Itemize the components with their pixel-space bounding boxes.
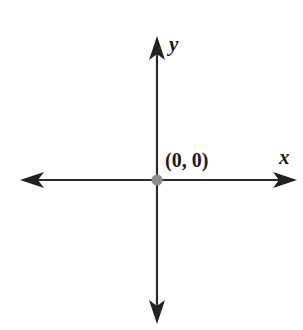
coordinate-plane-diagram: y x (0, 0) bbox=[0, 0, 303, 330]
axes-graphic bbox=[0, 0, 303, 330]
origin-label: (0, 0) bbox=[165, 150, 208, 170]
origin-point-icon bbox=[152, 175, 163, 186]
y-axis-label: y bbox=[169, 34, 178, 55]
x-axis-label: x bbox=[279, 147, 290, 168]
